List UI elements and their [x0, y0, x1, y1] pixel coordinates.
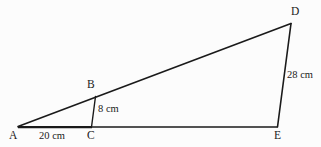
segment-bc [92, 97, 96, 128]
figure-canvas [0, 0, 321, 147]
vertex-label-c: C [87, 130, 95, 142]
geometry-figure: A B C D E 20 cm 8 cm 28 cm [0, 0, 321, 147]
measurement-label-ac: 20 cm [39, 131, 65, 142]
measurement-label-bc: 8 cm [98, 104, 119, 115]
segment-ad [18, 24, 291, 127]
vertex-label-a: A [9, 130, 17, 142]
vertex-label-d: D [291, 6, 299, 18]
vertex-label-b: B [87, 79, 95, 91]
vertex-label-e: E [274, 130, 281, 142]
measurement-label-de: 28 cm [287, 70, 313, 81]
